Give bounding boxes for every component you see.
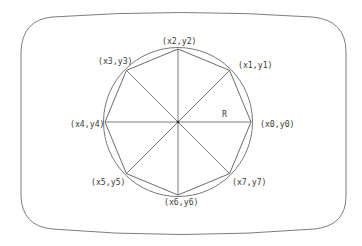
vertex-label-6: (x6,y6) — [164, 197, 199, 207]
vertex-label-2: (x2,y2) — [162, 36, 197, 46]
vertex-label-5: (x5,y5) — [91, 177, 126, 187]
octagon-circle-diagram: R (x0,y0) (x1,y1) (x2,y2) (x3,y3) (x4,y4… — [0, 0, 362, 246]
vertex-label-3: (x3,y3) — [98, 56, 133, 66]
spoke-7 — [178, 122, 230, 174]
spoke-3 — [126, 70, 178, 122]
vertex-label-0: (x0,y0) — [260, 119, 295, 129]
radius-label: R — [222, 109, 227, 119]
center-point — [177, 121, 179, 123]
spoke-5 — [126, 122, 178, 174]
vertex-label-1: (x1,y1) — [238, 60, 273, 70]
vertex-label-7: (x7,y7) — [232, 177, 267, 187]
vertex-label-4: (x4,y4) — [70, 119, 105, 129]
